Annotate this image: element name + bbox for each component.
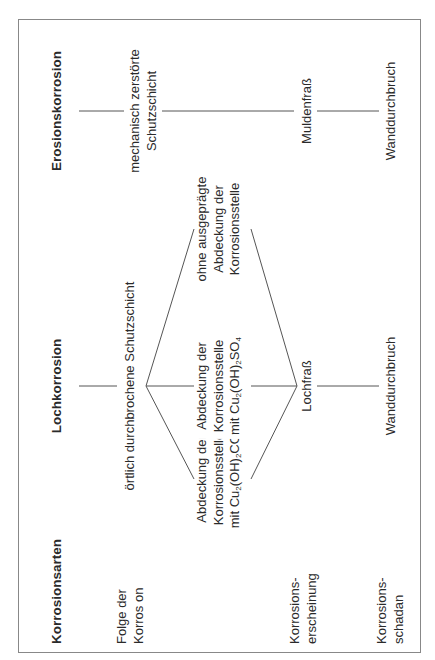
header-korrosionsarten: Korrosionsarten — [49, 539, 66, 644]
corrosion-diagram: Korrosionsarten Lochkorrosion Erosionsko… — [19, 20, 422, 654]
diagram-frame: Korrosionsarten Lochkorrosion Erosionsko… — [18, 19, 421, 653]
formula-so4: mit Cu2(OH)2SO4 — [227, 337, 244, 435]
erosion-consequence: mechanisch zerstörte Schutzschicht — [127, 49, 160, 173]
header-lochkorrosion: Lochkorrosion — [49, 339, 66, 434]
erosion-appearance: Muldenfraß — [299, 78, 316, 144]
row-label-appearance: Korrosions- erscheinung — [287, 573, 320, 644]
branch-cu2oh2co3: Abdeckung der Korrosionsstelle mit Cu2(O… — [194, 430, 244, 529]
row-label-consequence: Folge der Korros on — [114, 588, 147, 644]
branch-ohne-abdeckung: ohne ausgeprägte Abdeckung der Korrosion… — [194, 177, 244, 282]
branch-cu2oh2so4: Abdeckung der Korrosionsstelle mit Cu2(O… — [194, 333, 244, 439]
formula-co3: mit Cu2(OH)2CO3 — [227, 430, 244, 529]
lochkorrosion-consequence: örtlich durchbrochene Schutzschicht — [122, 282, 139, 491]
lochkorrosion-appearance: Lochfraß — [299, 360, 316, 411]
erosion-damage: Wanddurchbruch — [383, 62, 400, 161]
faint-caption-artifact — [424, 425, 434, 655]
row-label-damage: Korrosions- schadan — [374, 578, 407, 644]
header-erosionskorrosion: Erosionskorrosion — [49, 51, 66, 171]
lochkorrosion-damage: Wanddurchbruch — [383, 337, 400, 436]
